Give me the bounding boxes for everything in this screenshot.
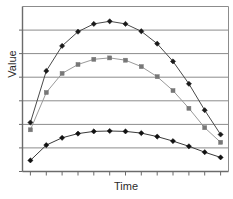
data-point <box>139 65 143 69</box>
data-point <box>124 58 128 62</box>
data-point <box>107 19 112 24</box>
series-line-3 <box>30 131 220 160</box>
plot-border <box>23 7 229 172</box>
data-point <box>60 71 64 75</box>
data-point <box>170 139 175 144</box>
line-chart: Value Time <box>0 0 233 199</box>
data-point <box>218 132 223 137</box>
data-point <box>123 129 128 134</box>
data-point <box>218 155 223 160</box>
data-point <box>92 57 96 61</box>
data-point <box>219 140 223 144</box>
data-series <box>28 19 223 163</box>
data-point <box>28 128 32 132</box>
data-point <box>139 131 144 136</box>
data-point <box>76 63 80 67</box>
data-point <box>107 128 112 133</box>
data-point <box>202 108 207 113</box>
data-point <box>202 150 207 155</box>
data-point <box>203 126 207 130</box>
data-point <box>44 68 49 73</box>
series-3 <box>28 128 223 163</box>
data-point <box>108 56 112 60</box>
x-axis-title: Time <box>22 180 230 192</box>
data-point <box>171 89 175 93</box>
series-1 <box>28 19 223 137</box>
plot-area <box>0 0 233 199</box>
data-point <box>60 135 65 140</box>
data-point <box>91 129 96 134</box>
data-point <box>155 134 160 139</box>
data-point <box>123 21 128 26</box>
data-point <box>155 75 159 79</box>
data-point <box>91 21 96 26</box>
data-point <box>44 91 48 95</box>
data-point <box>75 131 80 136</box>
data-point <box>187 106 191 110</box>
